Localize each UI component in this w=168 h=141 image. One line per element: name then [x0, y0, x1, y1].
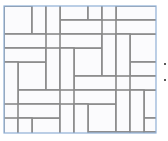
tile: [74, 48, 102, 76]
tile: [74, 90, 116, 104]
tile: [116, 0, 144, 6]
tile: [116, 6, 158, 20]
tile: [130, 34, 158, 62]
tile: [4, 118, 18, 141]
tile: [60, 34, 102, 48]
tile: [4, 34, 46, 48]
tile: [4, 6, 32, 34]
tile: [74, 104, 88, 141]
tile: [74, 76, 116, 90]
tile: [60, 0, 88, 20]
tile: [130, 62, 168, 76]
tile: [18, 104, 60, 118]
tile: [18, 90, 60, 104]
tile: [130, 90, 144, 132]
tile: [88, 104, 116, 132]
tile: [4, 48, 46, 62]
tile-pattern-graphic: [0, 0, 168, 141]
tile: [158, 20, 168, 62]
tile: [4, 62, 18, 104]
tile: [102, 34, 116, 76]
marker-dot: [164, 63, 166, 65]
tile: [116, 90, 130, 132]
tile: [144, 0, 158, 6]
tile: [60, 48, 74, 90]
tile-pattern-diagram: [0, 0, 168, 141]
tile: [158, 0, 168, 6]
tile-grid: [0, 0, 168, 141]
tile: [18, 62, 46, 90]
tile: [32, 118, 60, 141]
tile: [130, 76, 168, 90]
tile: [60, 20, 102, 34]
tile: [46, 0, 60, 34]
tile: [116, 20, 158, 34]
tile: [102, 0, 116, 20]
tile: [46, 48, 60, 90]
tile: [0, 0, 32, 6]
tile: [88, 0, 102, 20]
tile: [32, 0, 46, 34]
marker-dot: [164, 79, 166, 81]
tile: [60, 104, 74, 141]
tile: [116, 34, 130, 76]
tile: [18, 118, 32, 141]
